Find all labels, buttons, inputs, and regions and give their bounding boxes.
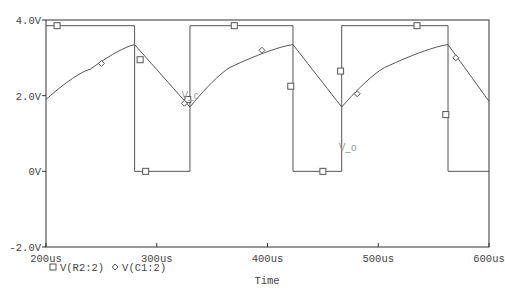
diamond-marker [453, 55, 459, 61]
diamond-marker [98, 61, 104, 67]
square-marker [338, 68, 344, 74]
square-marker [54, 23, 60, 29]
chart: 4.0V2.0V0V-2.0V 200us300us400us500us600u… [0, 0, 505, 300]
legend-label: V(R2:2) [60, 262, 104, 274]
y-tick-label: 0V [28, 166, 41, 178]
series-line [46, 26, 489, 172]
x-tick-label: 500us [362, 253, 394, 265]
legend: V(R2:2)V(C1:2) [50, 262, 166, 274]
x-tick-label: 400us [252, 253, 284, 265]
annotations: V_cV_o [181, 90, 356, 152]
y-tick-label: 2.0V [16, 91, 42, 103]
annotation-label: V_o [339, 142, 357, 153]
annotation-label: V_c [181, 90, 198, 101]
legend-diamond-icon [112, 264, 118, 270]
y-tick-label: 4.0V [16, 15, 42, 27]
square-marker [414, 23, 420, 29]
x-tick-label: 200us [30, 253, 62, 265]
square-marker [443, 112, 449, 118]
series-line [46, 45, 489, 107]
series-group [46, 23, 489, 175]
square-marker [320, 168, 326, 174]
square-marker [231, 23, 237, 29]
legend-label: V(C1:2) [122, 262, 166, 274]
x-tick-label: 600us [473, 253, 505, 265]
square-marker [143, 168, 149, 174]
square-marker [288, 83, 294, 89]
y-axis: 4.0V2.0V0V-2.0V [9, 15, 46, 254]
legend-square-icon [50, 264, 56, 270]
x-axis-label: Time [254, 275, 279, 287]
diamond-marker [354, 91, 360, 97]
square-marker [137, 57, 143, 63]
